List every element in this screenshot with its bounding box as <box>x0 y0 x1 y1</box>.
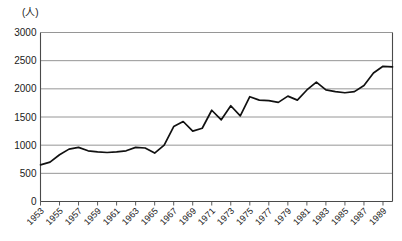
x-tick-label: 1963 <box>120 206 141 227</box>
x-tick-labels-group: 1953195519571959196119631965196719691971… <box>25 206 389 227</box>
x-tick-label: 1959 <box>82 206 103 227</box>
data-series-line <box>41 66 393 165</box>
chart-container: (人) 050010001500200025003000 19531955195… <box>0 0 402 241</box>
y-tick-label: 2000 <box>14 83 37 94</box>
y-tick-label: 1500 <box>14 112 37 123</box>
x-tick-label: 1985 <box>329 206 350 227</box>
plot-area: 050010001500200025003000 195319551957195… <box>0 0 402 241</box>
x-tick-label: 1983 <box>310 206 331 227</box>
x-tick-marks-group <box>41 202 383 206</box>
x-tick-label: 1973 <box>215 206 236 227</box>
x-tick-label: 1965 <box>139 206 160 227</box>
y-tick-label: 2500 <box>14 55 37 66</box>
y-tick-label: 0 <box>31 196 37 207</box>
x-tick-label: 1953 <box>25 206 46 227</box>
x-tick-label: 1989 <box>367 206 388 227</box>
x-tick-label: 1957 <box>63 206 84 227</box>
x-tick-label: 1969 <box>177 206 198 227</box>
x-tick-label: 1961 <box>101 206 122 227</box>
gridlines-group <box>41 33 393 202</box>
y-tick-label: 1000 <box>14 140 37 151</box>
x-tick-label: 1977 <box>253 206 274 227</box>
line-chart-svg: 050010001500200025003000 195319551957195… <box>0 0 402 241</box>
x-tick-label: 1967 <box>158 206 179 227</box>
x-tick-label: 1971 <box>196 206 217 227</box>
x-tick-label: 1955 <box>44 206 65 227</box>
y-tick-label: 3000 <box>14 27 37 38</box>
x-tick-label: 1987 <box>348 206 369 227</box>
y-tick-labels-group: 050010001500200025003000 <box>14 27 37 207</box>
x-tick-label: 1979 <box>272 206 293 227</box>
y-tick-label: 500 <box>20 168 37 179</box>
x-tick-label: 1975 <box>234 206 255 227</box>
x-tick-label: 1981 <box>291 206 312 227</box>
